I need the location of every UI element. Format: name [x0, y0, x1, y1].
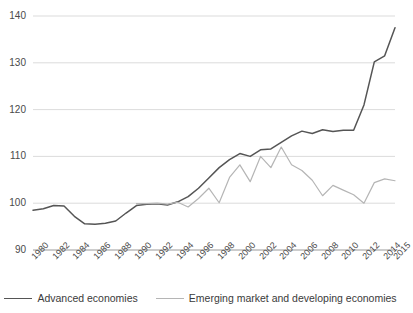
- legend-item-1: Emerging market and developing economies: [156, 292, 397, 304]
- legend-label: Advanced economies: [37, 292, 137, 304]
- chart-legend: Advanced economiesEmerging market and de…: [0, 290, 401, 306]
- legend-swatch-icon: [156, 298, 184, 299]
- legend-label: Emerging market and developing economies: [189, 292, 397, 304]
- legend-swatch-icon: [4, 298, 32, 299]
- y-tick-label: 110: [0, 151, 26, 161]
- y-tick-label: 140: [0, 11, 26, 21]
- y-tick-label: 90: [0, 245, 26, 255]
- y-tick-label: 130: [0, 58, 26, 68]
- y-tick-label: 100: [0, 198, 26, 208]
- y-tick-label: 120: [0, 105, 26, 115]
- legend-item-0: Advanced economies: [4, 292, 137, 304]
